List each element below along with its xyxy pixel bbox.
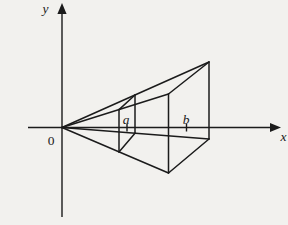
x-axis-arrowhead-icon bbox=[270, 123, 281, 132]
base-bottom-edge bbox=[169, 139, 210, 173]
edge-apex-to-base-top-front bbox=[62, 94, 169, 128]
pyramid-cross-section-diagram: y x 0 a b bbox=[0, 0, 288, 225]
labels-layer: y x 0 a b bbox=[41, 1, 287, 148]
point-b-label: b bbox=[183, 112, 190, 127]
origin-label: 0 bbox=[48, 133, 55, 148]
x-axis-label: x bbox=[280, 129, 287, 144]
axes bbox=[28, 3, 281, 217]
y-axis-arrowhead-icon bbox=[57, 3, 66, 14]
math-figure: y x 0 a b bbox=[0, 0, 288, 225]
section-a-bottom-edge bbox=[119, 133, 135, 152]
y-axis-label: y bbox=[41, 1, 49, 16]
point-a-label: a bbox=[123, 112, 130, 127]
